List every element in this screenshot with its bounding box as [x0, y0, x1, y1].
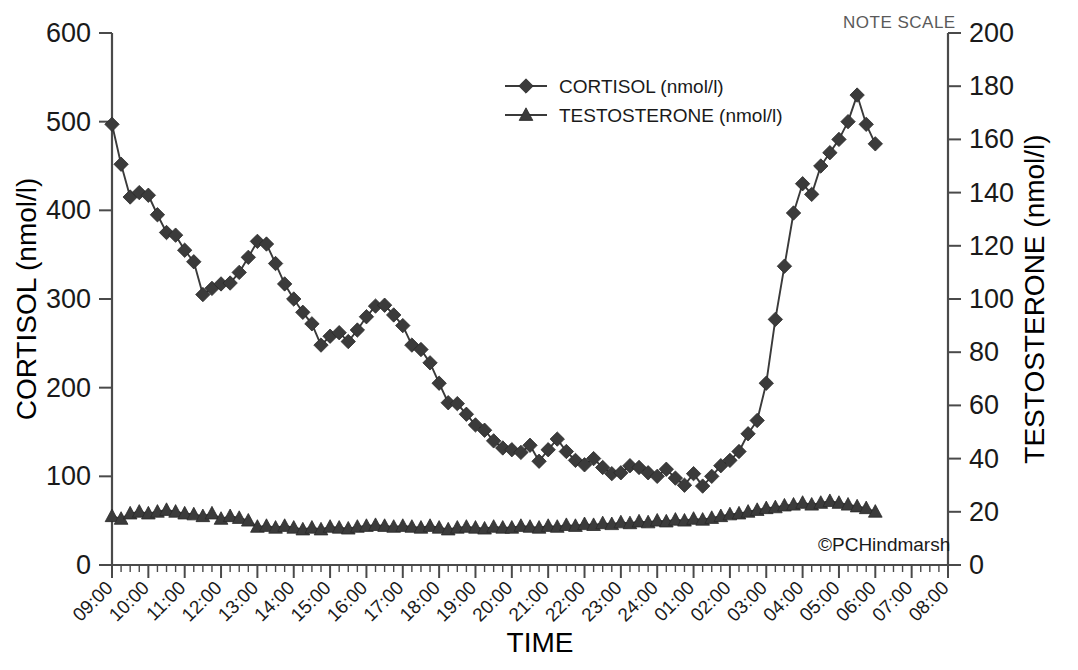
x-axis-tick-label: 03:00	[723, 577, 771, 625]
x-axis-tick-label: 09:00	[68, 577, 116, 625]
cortisol-series-marker	[750, 413, 764, 427]
cortisol-series-marker	[277, 277, 291, 291]
cortisol-series-marker	[114, 157, 128, 171]
x-axis-tick-label: 07:00	[868, 577, 916, 625]
cortisol-series-marker	[814, 159, 828, 173]
cortisol-series-line	[112, 95, 875, 486]
cortisol-series-marker	[823, 146, 837, 160]
right-axis-tick-label: 200	[969, 18, 1014, 48]
x-axis-tick-label: 24:00	[614, 577, 662, 625]
right-axis-tick-label: 140	[969, 178, 1014, 208]
left-axis-title: CORTISOL (nmol/l)	[11, 178, 42, 421]
x-axis-tick-label: 05:00	[795, 577, 843, 625]
x-axis-tick-label: 20:00	[468, 577, 516, 625]
cortisol-series-marker	[105, 117, 119, 131]
testosterone-series-marker	[205, 506, 219, 519]
cortisol-series-marker	[287, 292, 301, 306]
right-axis-title: TESTOSTERONE (nmol/l)	[1019, 134, 1050, 463]
chart-figure: 0100200300400500600020406080100120140160…	[0, 0, 1078, 670]
right-axis-tick-label: 0	[969, 550, 984, 580]
x-axis-tick-label: 19:00	[432, 577, 480, 625]
left-axis-tick-label: 300	[46, 284, 91, 314]
x-axis-tick-label: 12:00	[177, 577, 225, 625]
testosterone-series	[105, 494, 882, 535]
right-axis-tick-label: 20	[969, 497, 999, 527]
cortisol-series-marker	[832, 132, 846, 146]
cortisol-series-marker	[150, 208, 164, 222]
cortisol-series-marker	[423, 356, 437, 370]
right-axis-tick-label: 120	[969, 231, 1014, 261]
cortisol-series-marker	[768, 312, 782, 326]
cortisol-series-marker	[268, 256, 282, 270]
x-axis-tick-label: 06:00	[832, 577, 880, 625]
cortisol-series-marker	[777, 259, 791, 273]
left-axis-tick-label: 100	[46, 461, 91, 491]
x-axis-title: TIME	[507, 627, 574, 658]
x-axis-tick-label: 08:00	[904, 577, 952, 625]
note-scale-annotation: NOTE SCALE	[843, 13, 956, 32]
cortisol-series-marker	[868, 137, 882, 151]
cortisol-series	[105, 88, 883, 493]
right-axis-tick-label: 180	[969, 71, 1014, 101]
x-axis-tick-label: 21:00	[505, 577, 553, 625]
cortisol-series-marker	[241, 250, 255, 264]
x-axis-tick-label: 01:00	[650, 577, 698, 625]
x-axis-tick-label: 22:00	[541, 577, 589, 625]
cortisol-series-marker	[841, 114, 855, 128]
right-axis-tick-label: 80	[969, 337, 999, 367]
x-axis-tick-label: 10:00	[105, 577, 153, 625]
cortisol-series-marker	[741, 427, 755, 441]
copyright-annotation: ©PCHindmarsh	[818, 534, 950, 555]
left-axis-tick-label: 0	[76, 550, 91, 580]
x-axis-tick-label: 14:00	[250, 577, 298, 625]
cortisol-series-marker	[759, 376, 773, 390]
cortisol-series-marker	[786, 206, 800, 220]
legend-marker-diamond	[519, 79, 533, 93]
legend-label: CORTISOL (nmol/l)	[559, 76, 724, 97]
right-axis-tick-label: 100	[969, 284, 1014, 314]
left-axis-tick-label: 200	[46, 373, 91, 403]
cortisol-series-marker	[859, 117, 873, 131]
x-axis-tick-label: 13:00	[214, 577, 262, 625]
right-axis-tick-label: 40	[969, 444, 999, 474]
left-axis-tick-label: 500	[46, 107, 91, 137]
x-axis-tick-label: 23:00	[577, 577, 625, 625]
right-axis-tick-label: 60	[969, 390, 999, 420]
right-axis-tick-label: 160	[969, 124, 1014, 154]
left-axis-tick-label: 600	[46, 18, 91, 48]
x-axis-tick-label: 04:00	[759, 577, 807, 625]
left-axis-tick-label: 400	[46, 195, 91, 225]
chart-canvas: 0100200300400500600020406080100120140160…	[0, 0, 1078, 670]
x-axis-tick-label: 18:00	[395, 577, 443, 625]
cortisol-series-marker	[850, 88, 864, 102]
cortisol-series-marker	[432, 376, 446, 390]
x-axis-tick-label: 17:00	[359, 577, 407, 625]
legend-label: TESTOSTERONE (nmol/l)	[559, 105, 782, 126]
x-axis-tick-label: 02:00	[686, 577, 734, 625]
x-axis-tick-label: 16:00	[323, 577, 371, 625]
x-axis-tick-label: 15:00	[286, 577, 334, 625]
x-axis-tick-label: 11:00	[142, 577, 189, 624]
